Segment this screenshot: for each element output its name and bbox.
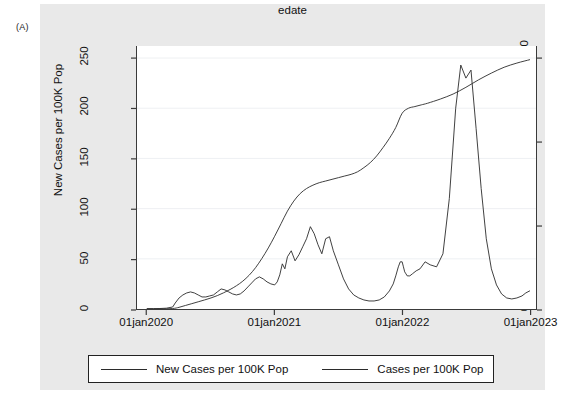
legend: New Cases per 100K Pop Cases per 100K Po…	[88, 355, 494, 383]
legend-line-icon	[101, 369, 147, 370]
graph-region: 050100150200250 0100002000030000 01jan20…	[40, 4, 545, 390]
legend-entry-cases: Cases per 100K Pop	[322, 356, 483, 382]
legend-label-new-cases: New Cases per 100K Pop	[156, 363, 288, 375]
legend-label-cases: Cases per 100K Pop	[377, 363, 483, 375]
y-axis-left-title: New Cases per 100K Pop	[52, 45, 64, 215]
x-tick-label: 01jan2021	[247, 316, 301, 328]
series-line-2	[147, 60, 529, 309]
x-tick-label: 01jan2022	[376, 316, 430, 328]
gridlines	[137, 58, 536, 259]
x-tick-label: 01jan2020	[119, 316, 173, 328]
legend-entry-new-cases: New Cases per 100K Pop	[101, 356, 288, 382]
series-lines	[147, 60, 529, 309]
x-tick-label: 01jan2023	[504, 316, 558, 328]
panel-label: (A)	[16, 22, 29, 32]
series-line-1	[147, 65, 529, 309]
plot-svg	[137, 46, 536, 309]
plot-area	[136, 46, 537, 310]
figure-panel-a: 050100150200250 0100002000030000 01jan20…	[0, 0, 570, 414]
legend-line-icon	[322, 369, 368, 370]
